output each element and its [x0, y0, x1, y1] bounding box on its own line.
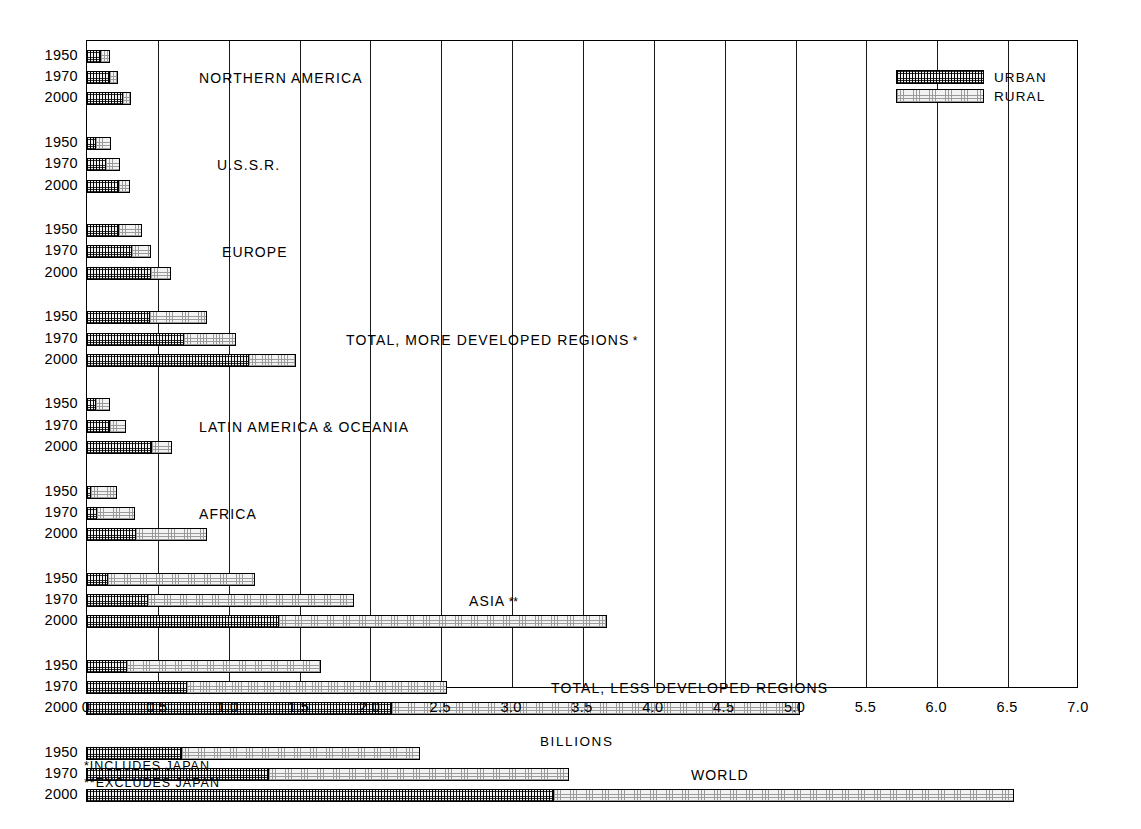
gridline [512, 41, 513, 687]
bar-row [86, 573, 255, 586]
bar-row [86, 486, 117, 499]
group-label: NORTHERN AMERICA [199, 72, 363, 85]
gridline [300, 41, 301, 687]
bar-row [86, 180, 130, 193]
axis-tick-label: 6.5 [982, 700, 1032, 715]
bar-row [86, 50, 110, 63]
bar-segment-rural [149, 311, 208, 324]
axis-tick-label: 7.0 [1053, 700, 1103, 715]
gridline [866, 41, 867, 687]
axis-tick-label: 1.0 [203, 700, 253, 715]
bar-segment-urban [86, 245, 132, 258]
bar-segment-rural [147, 594, 353, 607]
year-label: 1970 [28, 767, 78, 780]
gridline [583, 41, 584, 687]
year-label: 1950 [28, 49, 78, 62]
bar-segment-urban [86, 311, 150, 324]
bar-segment-rural [95, 137, 111, 150]
gridline [796, 41, 797, 687]
bar-segment-urban [86, 747, 182, 760]
bar-segment-rural [151, 441, 172, 454]
gridline [654, 41, 655, 687]
bar-segment-urban [86, 180, 119, 193]
bar-row [86, 681, 447, 694]
bar-segment-urban [86, 267, 151, 280]
footnote-marker: ** [505, 595, 518, 609]
year-label: 1970 [28, 506, 78, 519]
bar-segment-urban [86, 528, 136, 541]
bar-row [86, 594, 354, 607]
year-label: 1970 [28, 157, 78, 170]
bar-segment-rural [131, 245, 152, 258]
axis-tick-label: 1.5 [274, 700, 324, 715]
year-label: 2000 [28, 440, 78, 453]
bar-row [86, 137, 112, 150]
bar-segment-urban [86, 354, 249, 367]
bar-segment-rural [126, 660, 321, 673]
year-label: 1970 [28, 332, 78, 345]
bar-segment-rural [105, 158, 121, 171]
bar-segment-rural [107, 573, 255, 586]
bar-segment-rural [553, 789, 1015, 802]
axis-tick-label: 6.0 [911, 700, 961, 715]
footnote: **EXCLUDES JAPAN [84, 776, 220, 791]
axis-tick-label: 5.5 [840, 700, 890, 715]
bar-segment-urban [86, 789, 554, 802]
bar-row [86, 441, 172, 454]
bar-segment-rural [268, 768, 569, 781]
year-label: 1950 [28, 223, 78, 236]
year-label: 2000 [28, 91, 78, 104]
bar-row [86, 420, 126, 433]
bar-segment-rural [122, 92, 131, 105]
chart-legend: URBANRURAL [896, 70, 1116, 110]
axis-tick-label: 5.0 [770, 700, 820, 715]
year-label: 2000 [28, 527, 78, 540]
year-label: 1950 [28, 485, 78, 498]
bar-segment-urban [86, 660, 127, 673]
chart-page: BILLIONS URBANRURAL *INCLUDES JAPAN**EXC… [0, 0, 1141, 829]
gridline [937, 41, 938, 687]
year-label: 1970 [28, 593, 78, 606]
group-label: LATIN AMERICA & OCEANIA [199, 421, 409, 434]
group-label: U.S.S.R. [217, 159, 280, 172]
bar-segment-urban [86, 681, 187, 694]
group-label: ASIA ** [469, 595, 518, 609]
axis-tick-label: 0.5 [132, 700, 182, 715]
bar-segment-urban [86, 158, 106, 171]
group-label: WORLD [691, 769, 749, 782]
axis-tick-label: 2.0 [344, 700, 394, 715]
year-label: 1950 [28, 397, 78, 410]
year-label: 2000 [28, 788, 78, 801]
group-label: TOTAL, LESS DEVELOPED REGIONS [551, 682, 828, 695]
year-label: 1950 [28, 572, 78, 585]
gridline [441, 41, 442, 687]
bar-segment-rural [95, 398, 110, 411]
axis-tick-label: 4.0 [628, 700, 678, 715]
bar-segment-rural [118, 180, 130, 193]
year-label: 2000 [28, 179, 78, 192]
bar-row [86, 92, 131, 105]
axis-tick-label: 2.5 [415, 700, 465, 715]
year-label: 1970 [28, 419, 78, 432]
bar-row [86, 660, 321, 673]
year-label: 1950 [28, 310, 78, 323]
bar-segment-urban [86, 50, 101, 63]
axis-title: BILLIONS [540, 734, 614, 749]
year-label: 2000 [28, 266, 78, 279]
group-label: AFRICA [199, 508, 257, 521]
group-label: TOTAL, MORE DEVELOPED REGIONS * [346, 334, 637, 348]
year-label: 2000 [28, 614, 78, 627]
footnote: *INCLUDES JAPAN [84, 759, 210, 774]
bar-row [86, 528, 207, 541]
bar-row [86, 267, 171, 280]
axis-tick-label: 0 [61, 700, 111, 715]
year-label: 1970 [28, 70, 78, 83]
bar-row [86, 354, 296, 367]
bar-segment-urban [86, 441, 152, 454]
year-label: 1950 [28, 746, 78, 759]
gridline [725, 41, 726, 687]
axis-tick-label: 3.0 [486, 700, 536, 715]
bar-row [86, 311, 207, 324]
bar-segment-rural [109, 420, 126, 433]
bar-segment-urban [86, 92, 123, 105]
